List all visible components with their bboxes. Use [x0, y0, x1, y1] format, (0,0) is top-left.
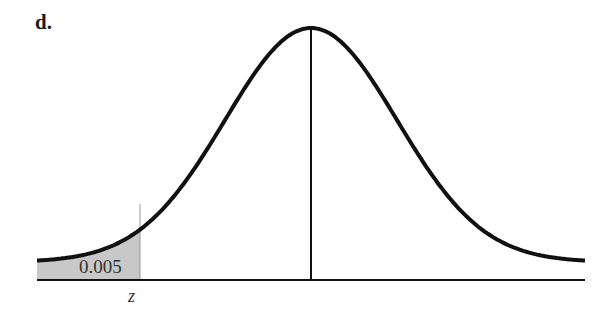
z-tick-label: z	[127, 286, 135, 306]
normal-curve-chart: 0.005 z	[0, 0, 616, 321]
tail-area-label: 0.005	[79, 256, 122, 277]
